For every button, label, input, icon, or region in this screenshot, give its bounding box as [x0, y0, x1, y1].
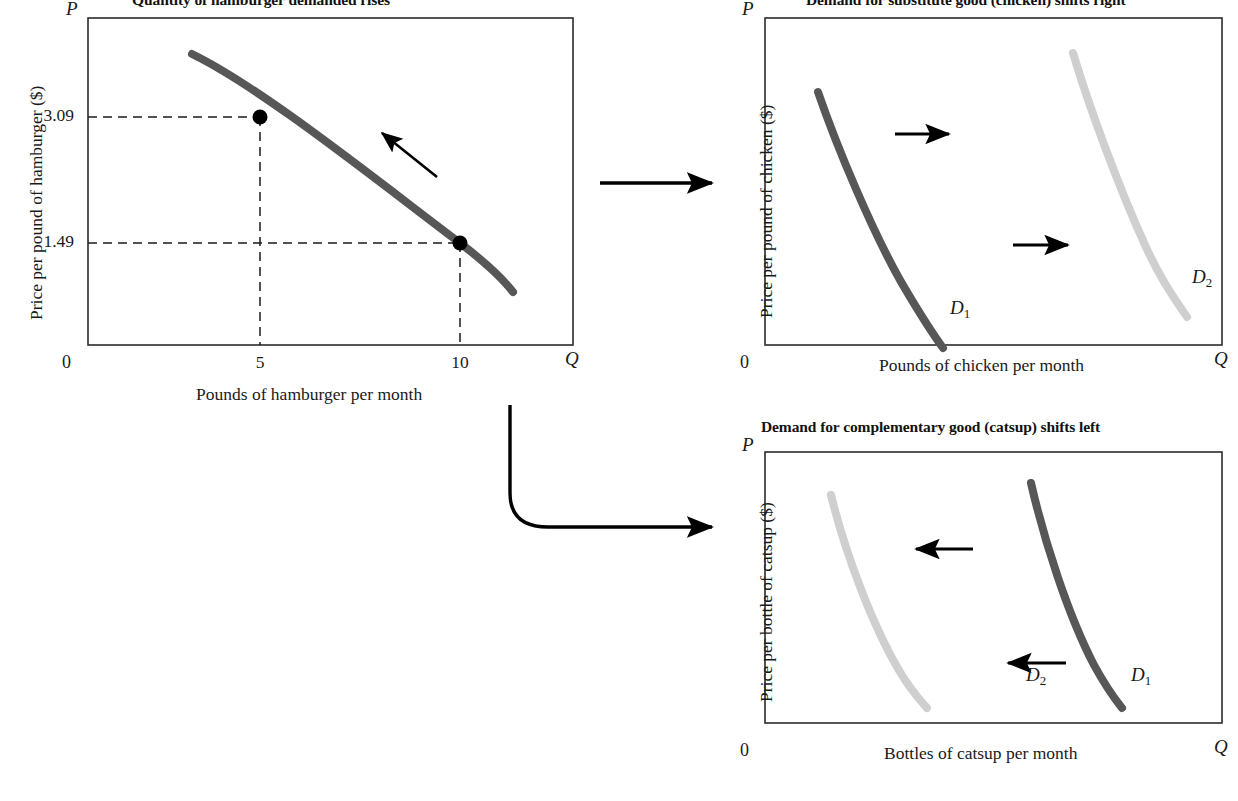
chicken-curve-label-d2-letter: D: [1192, 266, 1206, 287]
hamburger-x-axis-label: Pounds of hamburger per month: [196, 384, 422, 405]
hamburger-y-tick-309: 3.09: [0, 105, 74, 126]
catsup-x-axis-label: Bottles of catsup per month: [884, 743, 1077, 764]
figure-canvas: Quantity of hamburger demanded rises P P…: [0, 0, 1238, 801]
catsup-curve-label-d2-letter: D: [1026, 664, 1040, 685]
catsup-curve-label-d1-sub: 1: [1145, 673, 1151, 688]
chicken-x-axis-label: Pounds of chicken per month: [879, 355, 1084, 376]
catsup-demand-curve-d2: [831, 495, 927, 708]
catsup-curve-label-d2-sub: 2: [1040, 673, 1046, 688]
chicken-curve-label-d1: D1: [950, 297, 970, 322]
catsup-y-axis-label: Price per bottle of catsup ($): [756, 502, 777, 702]
hamburger-point-a: [253, 110, 268, 125]
figure-graphics: [0, 0, 1238, 801]
hamburger-plot-frame: [88, 18, 573, 345]
hamburger-panel-title: Quantity of hamburger demanded rises: [132, 0, 390, 9]
hamburger-x-axis-variable: Q: [565, 348, 579, 370]
catsup-curve-label-d1-letter: D: [1131, 664, 1145, 685]
hamburger-y-tick-149: 1.49: [0, 231, 74, 252]
hamburger-x-tick-10: 10: [430, 352, 490, 373]
hamburger-x-tick-5: 5: [230, 352, 290, 373]
catsup-curve-label-d2: D2: [1026, 664, 1046, 689]
catsup-origin-label: 0: [740, 740, 749, 761]
chicken-demand-curve-d2: [1073, 53, 1187, 317]
catsup-y-axis-variable: P: [742, 434, 754, 456]
chicken-curve-label-d2-sub: 2: [1206, 275, 1212, 290]
catsup-panel-title: Demand for complementary good (catsup) s…: [761, 418, 1100, 436]
hamburger-y-axis-variable: P: [66, 0, 78, 20]
chicken-plot-frame: [765, 18, 1222, 345]
hamburger-origin-label: 0: [62, 352, 71, 373]
chicken-origin-label: 0: [740, 352, 749, 373]
chicken-curve-label-d1-sub: 1: [964, 306, 970, 321]
chicken-y-axis-variable: P: [742, 0, 754, 20]
chicken-panel-title: Demand for substitute good (chicken) shi…: [806, 0, 1125, 9]
connector-arrow-to-catsup: [510, 405, 712, 527]
hamburger-demand-curve: [192, 54, 513, 292]
catsup-x-axis-variable: Q: [1214, 736, 1228, 758]
chicken-demand-curve-d1: [818, 92, 943, 348]
chicken-curve-label-d1-letter: D: [950, 297, 964, 318]
chicken-x-axis-variable: Q: [1214, 348, 1228, 370]
chicken-y-axis-label: Price per pound of chicken ($): [756, 105, 777, 318]
chicken-curve-label-d2: D2: [1192, 266, 1212, 291]
hamburger-point-b: [453, 236, 468, 251]
hamburger-movement-arrow: [382, 133, 437, 177]
catsup-curve-label-d1: D1: [1131, 664, 1151, 689]
